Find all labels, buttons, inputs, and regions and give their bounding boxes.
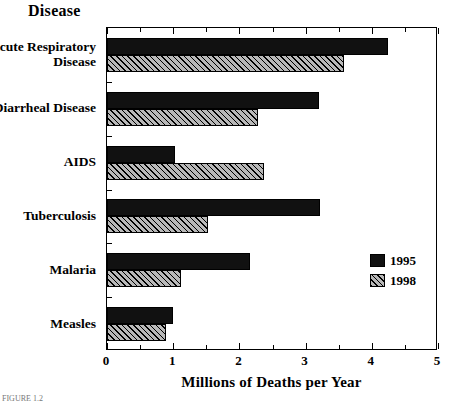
x-tick-major — [239, 343, 240, 349]
bar-1998 — [107, 109, 258, 126]
bar-1998 — [107, 55, 344, 72]
bar-1995 — [107, 199, 320, 216]
bar-1995 — [107, 92, 319, 109]
category-label: Measles — [0, 316, 96, 331]
x-tick-minor — [140, 345, 141, 349]
x-tick-major-top — [372, 28, 373, 34]
bar-1998 — [107, 163, 264, 180]
x-tick-major — [306, 343, 307, 349]
x-tick-major — [173, 343, 174, 349]
x-axis-title: Millions of Deaths per Year — [106, 374, 437, 391]
legend-swatch-1995 — [370, 254, 385, 267]
x-tick-major — [438, 343, 439, 349]
x-tick-minor — [206, 345, 207, 349]
y-tick — [107, 297, 112, 298]
bar-1995 — [107, 38, 388, 55]
bar-1995 — [107, 307, 173, 324]
figure-caption: FIGURE 1.2 — [2, 394, 302, 404]
bar-1998 — [107, 324, 166, 341]
x-tick-label: 4 — [356, 353, 386, 369]
x-tick-minor-top — [140, 28, 141, 32]
category-label: AIDS — [0, 154, 96, 169]
figure-bar-chart: Disease 012345 Acute Respiratory Disease… — [0, 0, 467, 404]
legend-item-1998: 1998 — [370, 272, 416, 289]
x-tick-major-top — [239, 28, 240, 34]
x-tick-minor-top — [339, 28, 340, 32]
x-tick-minor-top — [273, 28, 274, 32]
x-tick-major-top — [173, 28, 174, 34]
x-tick-label: 1 — [157, 353, 187, 369]
legend-label-1995: 1995 — [390, 253, 416, 269]
bar-1998 — [107, 270, 181, 287]
x-tick-label: 3 — [290, 353, 320, 369]
y-tick — [107, 190, 112, 191]
y-axis-heading: Disease — [28, 2, 81, 20]
y-tick — [107, 136, 112, 137]
x-tick-label: 0 — [91, 353, 121, 369]
category-label: Malaria — [0, 262, 96, 277]
x-tick-major-top — [438, 28, 439, 34]
category-label: Acute Respiratory Disease — [0, 39, 96, 69]
legend-label-1998: 1998 — [390, 273, 416, 289]
y-tick — [107, 82, 112, 83]
x-tick-minor — [405, 345, 406, 349]
category-label: Tuberculosis — [0, 208, 96, 223]
bar-1998 — [107, 216, 208, 233]
bar-1995 — [107, 253, 250, 270]
x-tick-major-top — [107, 28, 108, 34]
x-tick-minor-top — [206, 28, 207, 32]
x-tick-major — [372, 343, 373, 349]
x-tick-major-top — [306, 28, 307, 34]
y-tick — [107, 243, 112, 244]
legend: 1995 1998 — [370, 252, 416, 292]
x-tick-major — [107, 343, 108, 349]
legend-item-1995: 1995 — [370, 252, 416, 269]
x-tick-label: 2 — [223, 353, 253, 369]
x-tick-minor — [273, 345, 274, 349]
x-tick-minor — [339, 345, 340, 349]
category-label: Diarrheal Disease — [0, 100, 96, 115]
x-tick-label: 5 — [422, 353, 452, 369]
bar-1995 — [107, 146, 175, 163]
plot-area — [106, 27, 437, 350]
x-tick-minor-top — [405, 28, 406, 32]
legend-swatch-1998 — [370, 274, 385, 287]
plot-inner — [107, 28, 436, 349]
